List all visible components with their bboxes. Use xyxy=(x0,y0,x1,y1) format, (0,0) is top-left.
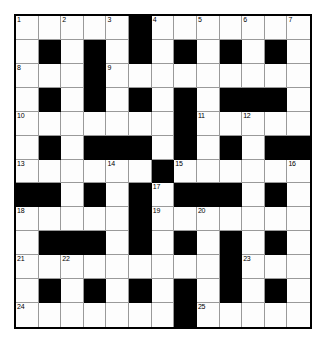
crossword-letter-square[interactable] xyxy=(242,136,265,160)
crossword-letter-square[interactable] xyxy=(84,16,107,40)
crossword-letter-square[interactable] xyxy=(242,303,265,327)
crossword-letter-square[interactable] xyxy=(152,231,175,255)
crossword-letter-square[interactable] xyxy=(39,303,62,327)
crossword-letter-square[interactable]: 3 xyxy=(106,16,129,40)
crossword-letter-square[interactable] xyxy=(84,160,107,184)
crossword-letter-square[interactable] xyxy=(61,160,84,184)
crossword-letter-square[interactable] xyxy=(39,255,62,279)
crossword-letter-square[interactable] xyxy=(61,183,84,207)
crossword-grid[interactable]: 1234567891011121314151617181920212223242… xyxy=(14,14,312,329)
crossword-letter-square[interactable] xyxy=(220,64,243,88)
crossword-letter-square[interactable] xyxy=(287,64,310,88)
crossword-letter-square[interactable] xyxy=(265,16,288,40)
crossword-letter-square[interactable]: 19 xyxy=(152,207,175,231)
crossword-letter-square[interactable] xyxy=(84,112,107,136)
crossword-letter-square[interactable] xyxy=(242,160,265,184)
crossword-letter-square[interactable] xyxy=(242,183,265,207)
crossword-letter-square[interactable] xyxy=(197,231,220,255)
crossword-letter-square[interactable] xyxy=(129,64,152,88)
crossword-letter-square[interactable] xyxy=(287,207,310,231)
crossword-letter-square[interactable] xyxy=(220,160,243,184)
crossword-letter-square[interactable]: 12 xyxy=(242,112,265,136)
crossword-letter-square[interactable]: 6 xyxy=(242,16,265,40)
crossword-letter-square[interactable] xyxy=(265,112,288,136)
crossword-letter-square[interactable] xyxy=(287,183,310,207)
crossword-letter-square[interactable]: 21 xyxy=(16,255,39,279)
crossword-letter-square[interactable]: 17 xyxy=(152,183,175,207)
crossword-letter-square[interactable] xyxy=(16,231,39,255)
crossword-letter-square[interactable] xyxy=(265,207,288,231)
crossword-letter-square[interactable] xyxy=(152,64,175,88)
crossword-letter-square[interactable] xyxy=(16,136,39,160)
crossword-letter-square[interactable] xyxy=(152,255,175,279)
crossword-letter-square[interactable] xyxy=(61,40,84,64)
crossword-letter-square[interactable] xyxy=(197,136,220,160)
crossword-letter-square[interactable] xyxy=(129,160,152,184)
crossword-letter-square[interactable] xyxy=(152,88,175,112)
crossword-letter-square[interactable]: 13 xyxy=(16,160,39,184)
crossword-letter-square[interactable] xyxy=(287,279,310,303)
crossword-letter-square[interactable] xyxy=(16,40,39,64)
crossword-letter-square[interactable] xyxy=(39,16,62,40)
crossword-letter-square[interactable] xyxy=(152,112,175,136)
crossword-letter-square[interactable] xyxy=(197,64,220,88)
crossword-letter-square[interactable] xyxy=(174,16,197,40)
crossword-letter-square[interactable] xyxy=(84,207,107,231)
crossword-letter-square[interactable]: 16 xyxy=(287,160,310,184)
crossword-letter-square[interactable]: 7 xyxy=(287,16,310,40)
crossword-letter-square[interactable]: 9 xyxy=(106,64,129,88)
crossword-letter-square[interactable]: 20 xyxy=(197,207,220,231)
crossword-letter-square[interactable] xyxy=(152,303,175,327)
crossword-letter-square[interactable] xyxy=(287,303,310,327)
crossword-letter-square[interactable] xyxy=(287,112,310,136)
crossword-letter-square[interactable] xyxy=(39,112,62,136)
crossword-letter-square[interactable] xyxy=(106,40,129,64)
crossword-letter-square[interactable] xyxy=(242,231,265,255)
crossword-letter-square[interactable]: 23 xyxy=(242,255,265,279)
crossword-letter-square[interactable] xyxy=(287,40,310,64)
crossword-letter-square[interactable] xyxy=(129,255,152,279)
crossword-letter-square[interactable] xyxy=(152,40,175,64)
crossword-letter-square[interactable] xyxy=(197,255,220,279)
crossword-letter-square[interactable]: 15 xyxy=(174,160,197,184)
crossword-letter-square[interactable] xyxy=(61,88,84,112)
crossword-letter-square[interactable] xyxy=(84,303,107,327)
crossword-letter-square[interactable]: 18 xyxy=(16,207,39,231)
crossword-letter-square[interactable] xyxy=(174,64,197,88)
crossword-letter-square[interactable] xyxy=(242,40,265,64)
crossword-letter-square[interactable] xyxy=(61,303,84,327)
crossword-letter-square[interactable] xyxy=(197,88,220,112)
crossword-letter-square[interactable] xyxy=(265,255,288,279)
crossword-letter-square[interactable] xyxy=(106,231,129,255)
crossword-letter-square[interactable]: 8 xyxy=(16,64,39,88)
crossword-letter-square[interactable] xyxy=(242,64,265,88)
crossword-letter-square[interactable] xyxy=(265,160,288,184)
crossword-letter-square[interactable] xyxy=(106,112,129,136)
crossword-letter-square[interactable] xyxy=(106,183,129,207)
crossword-letter-square[interactable] xyxy=(106,279,129,303)
crossword-letter-square[interactable] xyxy=(106,207,129,231)
crossword-letter-square[interactable] xyxy=(39,207,62,231)
crossword-letter-square[interactable] xyxy=(39,64,62,88)
crossword-letter-square[interactable] xyxy=(61,64,84,88)
crossword-letter-square[interactable] xyxy=(197,40,220,64)
crossword-letter-square[interactable] xyxy=(61,136,84,160)
crossword-letter-square[interactable]: 2 xyxy=(61,16,84,40)
crossword-letter-square[interactable] xyxy=(84,255,107,279)
crossword-letter-square[interactable] xyxy=(287,231,310,255)
crossword-letter-square[interactable] xyxy=(287,88,310,112)
crossword-letter-square[interactable] xyxy=(287,255,310,279)
crossword-letter-square[interactable] xyxy=(61,207,84,231)
crossword-letter-square[interactable]: 14 xyxy=(106,160,129,184)
crossword-letter-square[interactable] xyxy=(242,207,265,231)
crossword-letter-square[interactable] xyxy=(16,88,39,112)
crossword-letter-square[interactable]: 11 xyxy=(197,112,220,136)
crossword-letter-square[interactable]: 24 xyxy=(16,303,39,327)
crossword-letter-square[interactable] xyxy=(152,136,175,160)
crossword-letter-square[interactable] xyxy=(16,279,39,303)
crossword-letter-square[interactable] xyxy=(265,303,288,327)
crossword-letter-square[interactable] xyxy=(106,88,129,112)
crossword-letter-square[interactable] xyxy=(242,279,265,303)
crossword-letter-square[interactable] xyxy=(129,112,152,136)
crossword-letter-square[interactable] xyxy=(220,303,243,327)
